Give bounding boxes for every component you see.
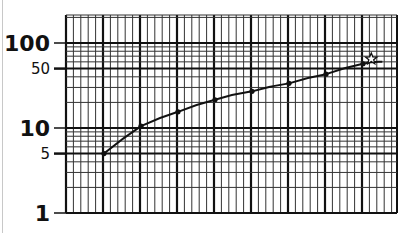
- data-point: [286, 81, 291, 86]
- y-tick-label: 5: [40, 145, 50, 163]
- y-tick-label: 10: [19, 116, 50, 141]
- vertical-grid-lines: [66, 15, 397, 213]
- data-point: [138, 124, 143, 129]
- y-tick-label: 50: [31, 60, 50, 78]
- y-axis-ticks: 100501051: [4, 31, 66, 226]
- y-tick-label: 1: [35, 201, 50, 226]
- data-point: [212, 97, 217, 102]
- data-point: [249, 89, 254, 94]
- data-point: [175, 109, 180, 114]
- data-point: [101, 151, 106, 156]
- log-line-chart: 100501051: [0, 0, 409, 233]
- y-tick-label: 100: [4, 31, 50, 56]
- data-point: [323, 72, 328, 77]
- data-point: [360, 61, 365, 66]
